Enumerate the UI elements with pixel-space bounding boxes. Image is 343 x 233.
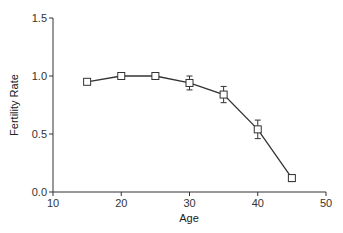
square-marker-icon	[220, 91, 227, 98]
x-tick-label: 20	[115, 197, 127, 209]
square-marker-icon	[288, 175, 295, 182]
square-marker-icon	[186, 79, 193, 86]
y-tick-label: 1.5	[32, 12, 47, 24]
square-marker-icon	[152, 73, 159, 80]
y-tick-label: 0.0	[32, 186, 47, 198]
y-tick-label: 1.0	[32, 70, 47, 82]
x-tick-label: 10	[47, 197, 59, 209]
y-tick-label: 0.5	[32, 128, 47, 140]
fertility-chart: 10203040500.00.51.01.5 Age Fertility Rat…	[0, 0, 343, 233]
x-tick-label: 40	[252, 197, 264, 209]
square-marker-icon	[84, 78, 91, 85]
x-tick-label: 30	[183, 197, 195, 209]
axes: 10203040500.00.51.01.5	[32, 12, 332, 209]
data-series	[84, 73, 296, 182]
x-tick-label: 50	[320, 197, 332, 209]
x-axis-label: Age	[179, 212, 199, 224]
square-marker-icon	[118, 73, 125, 80]
y-axis-label: Fertility Rate	[8, 74, 20, 136]
square-marker-icon	[254, 126, 261, 133]
